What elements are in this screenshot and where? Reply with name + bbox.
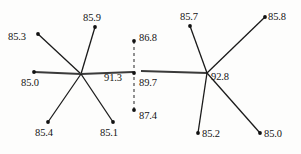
left-star-label-top: 85.9 [83,12,101,23]
left-star-label-lower-left: 85.4 [35,127,53,138]
left-star-point-lower-right [111,120,115,124]
right-star-label-upper-left: 85.7 [180,11,198,22]
middle-point-bottom [132,108,136,112]
left-star-ray-top [81,27,95,74]
right-star-ray-upper-left [190,26,207,73]
star-glyph-figure: 85.9 85.3 85.0 85.4 85.1 91.3 86.8 89.7 … [0,0,301,154]
left-star-label-upper-left: 85.3 [8,31,26,42]
left-star-point-top [93,25,97,29]
right-star-label-lower-left: 85.2 [202,128,220,139]
left-star-label-center: 91.3 [104,72,122,83]
middle-label-bottom: 87.4 [139,110,157,121]
right-star-label-upper-right: 85.8 [268,11,286,22]
right-star-ray-left-axis [141,71,207,73]
left-star-point-left [32,70,36,74]
left-star-label-left: 85.0 [21,77,39,88]
right-star-glyph [141,15,267,135]
left-star-ray-upper-left [38,34,81,74]
right-star-ray-lower-left [198,73,207,133]
right-star-ray-lower-right [207,73,260,133]
right-star-point-upper-left [188,24,192,28]
right-star-point-lower-left [196,131,200,135]
middle-label-top: 86.8 [139,32,157,43]
left-star-label-lower-right: 85.1 [100,127,118,138]
middle-point-top [132,39,136,43]
left-star-point-upper-left [36,32,40,36]
middle-label-center: 89.7 [139,77,157,88]
middle-point-center [132,71,136,75]
right-star-label-lower-right: 85.0 [264,128,282,139]
left-star-point-lower-left [46,120,50,124]
right-star-point-upper-right [263,15,267,19]
right-star-ray-upper-right [207,17,265,73]
right-star-label-center: 92.8 [211,71,229,82]
left-star-ray-left [34,72,81,74]
left-star-ray-lower-left [48,74,81,122]
middle-dashed-glyph [132,39,136,112]
right-star-point-lower-right [258,131,262,135]
